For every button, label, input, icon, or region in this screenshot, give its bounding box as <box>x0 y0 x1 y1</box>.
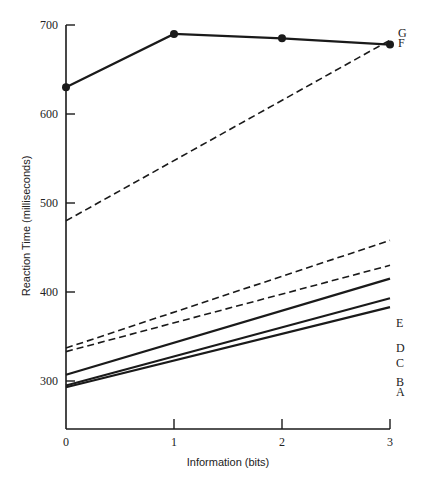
series-line-F <box>66 40 390 221</box>
series-line-E <box>66 240 390 348</box>
reaction-time-chart: 3004005006007000123 ABCDEFG Information … <box>0 0 424 480</box>
x-axis-title: Information (bits) <box>187 456 270 468</box>
series-line-A <box>66 307 390 387</box>
series-label-B: B <box>396 375 404 389</box>
data-point-marker <box>62 83 70 91</box>
series-line-B <box>66 298 390 385</box>
axes: 3004005006007000123 <box>40 18 393 449</box>
x-tick-label: 2 <box>279 435 285 449</box>
series-label-D: D <box>396 341 405 355</box>
series-label-E: E <box>396 316 403 330</box>
x-tick-label: 0 <box>63 435 69 449</box>
y-tick-label: 600 <box>40 107 58 121</box>
data-point-marker <box>278 34 286 42</box>
y-tick-label: 300 <box>40 374 58 388</box>
series-labels: ABCDEFG <box>396 26 407 399</box>
series-line-G <box>66 34 390 87</box>
y-tick-label: 500 <box>40 196 58 210</box>
y-tick-label: 400 <box>40 285 58 299</box>
y-axis-title: Reaction Time (milliseconds) <box>20 156 32 297</box>
data-point-marker <box>170 30 178 38</box>
series-label-C: C <box>396 356 404 370</box>
x-tick-label: 1 <box>171 435 177 449</box>
series-label-G: G <box>398 26 407 40</box>
data-point-marker <box>386 41 394 49</box>
series-line-D <box>66 265 390 351</box>
y-tick-label: 700 <box>40 18 58 32</box>
series-lines <box>62 30 394 387</box>
x-tick-label: 3 <box>387 435 393 449</box>
series-line-C <box>66 279 390 375</box>
